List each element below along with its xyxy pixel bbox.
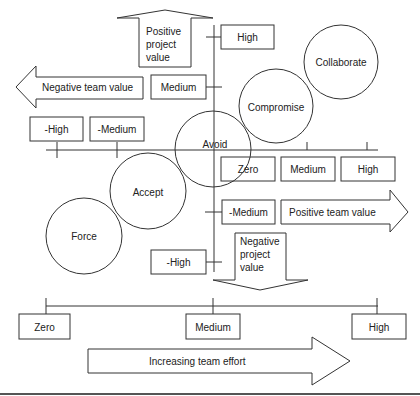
accept-label: Accept xyxy=(133,187,164,198)
positive-project-value-label-3: value xyxy=(146,52,170,63)
negative-project-value-label-3: value xyxy=(240,262,264,273)
compromise-label: Compromise xyxy=(248,102,305,113)
project-medium-label: Medium xyxy=(161,82,197,93)
team-zero-label: Zero xyxy=(238,164,259,175)
team-neg-medium-label: -Medium xyxy=(98,124,137,135)
team-neg-high-label: -High xyxy=(45,124,69,135)
negative-project-value-label-1: Negative xyxy=(240,236,280,247)
effort-medium-label: Medium xyxy=(195,322,231,333)
positive-project-value-label-1: Positive xyxy=(146,26,181,37)
team-medium-label: Medium xyxy=(290,164,326,175)
diagram-canvas: Positive project value Negative team val… xyxy=(0,0,420,396)
project-high-label: High xyxy=(237,32,258,43)
team-high-label: High xyxy=(358,164,379,175)
positive-team-value-label: Positive team value xyxy=(289,207,376,218)
negative-project-value-label-2: project xyxy=(240,249,270,260)
effort-zero-label: Zero xyxy=(34,322,55,333)
positive-project-value-label-2: project xyxy=(146,39,176,50)
conflict-strategy-diagram: Positive project value Negative team val… xyxy=(0,0,420,396)
project-neg-medium-label: -Medium xyxy=(229,207,268,218)
force-label: Force xyxy=(71,231,97,242)
effort-high-label: High xyxy=(369,322,390,333)
increasing-team-effort-label: Increasing team effort xyxy=(149,356,246,367)
avoid-label: Avoid xyxy=(203,139,228,150)
project-neg-high-label: -High xyxy=(167,257,191,268)
negative-team-value-label: Negative team value xyxy=(42,82,134,93)
collaborate-label: Collaborate xyxy=(315,57,367,68)
